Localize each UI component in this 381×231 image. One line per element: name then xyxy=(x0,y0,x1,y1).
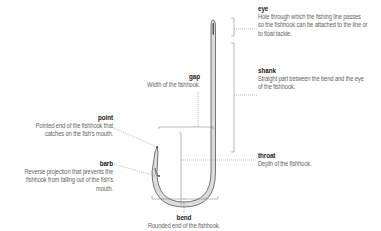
shank-label: shank xyxy=(258,66,276,75)
gap-description: Width of the fishhook. xyxy=(130,81,200,89)
barb-label: barb xyxy=(31,159,113,168)
bend-label: bend xyxy=(149,213,219,222)
throat-label: throat xyxy=(258,151,275,160)
gap-leader xyxy=(159,92,213,129)
shank-leader xyxy=(231,43,257,152)
point-leader xyxy=(114,128,157,147)
barb-leader xyxy=(114,164,155,176)
shank-description: Straight part between the bend and the e… xyxy=(258,75,368,92)
fishhook-illustration xyxy=(152,20,216,207)
bend-description: Rounded end of the fishhook. xyxy=(131,222,237,230)
point-description: Pointed end of the fishhook that catches… xyxy=(19,122,113,139)
eye-leader xyxy=(231,18,257,36)
gap-label: gap xyxy=(130,72,200,81)
throat-leader xyxy=(179,133,257,205)
point-label: point xyxy=(31,113,113,122)
eye-hole xyxy=(213,23,215,36)
eye-description: Hole through which the fishing line pass… xyxy=(258,13,368,38)
eye-label: eye xyxy=(258,4,268,13)
barb-description: Reverse projection that prevents the fis… xyxy=(15,168,113,193)
throat-description: Depth of the fishhook. xyxy=(258,160,355,168)
